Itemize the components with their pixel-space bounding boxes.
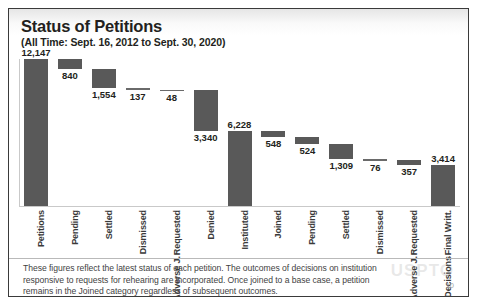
category-label-11: RequestedAdverse J. bbox=[397, 208, 421, 256]
category-label-line: Petitions bbox=[36, 210, 46, 247]
bar-settled-2[interactable] bbox=[92, 69, 116, 88]
category-label-4: RequestedAdverse J. bbox=[160, 208, 184, 256]
bar-value-label: 3,414 bbox=[417, 153, 469, 164]
title-block: Status of Petitions (All Time: Sept. 16,… bbox=[21, 18, 451, 48]
bar-joined-7[interactable] bbox=[261, 131, 285, 138]
bar-column: 3,414 bbox=[431, 59, 455, 206]
bar-settled-9[interactable] bbox=[329, 144, 353, 160]
category-label-line: Denied bbox=[206, 210, 216, 239]
category-label-9: Settled bbox=[329, 208, 353, 256]
category-label-line: Pending bbox=[307, 210, 317, 245]
category-label-1: Pending bbox=[58, 208, 82, 256]
category-label-line: Adverse J. bbox=[409, 256, 419, 297]
category-label-0: Petitions bbox=[24, 208, 48, 256]
bar-dismissed-3[interactable] bbox=[126, 88, 150, 90]
category-label-2: Settled bbox=[92, 208, 116, 256]
bar-value-label: 12,147 bbox=[10, 47, 62, 58]
category-label-line: Decisions bbox=[443, 256, 453, 297]
category-label-line: Instituted bbox=[240, 210, 250, 250]
bar-column: 6,228 bbox=[228, 59, 252, 206]
bar-value-label: 3,340 bbox=[180, 132, 232, 143]
bar-requested-adverse-j-4[interactable] bbox=[160, 90, 184, 92]
page-title: Status of Petitions bbox=[21, 18, 451, 35]
bar-column: 357 bbox=[397, 59, 421, 206]
category-label-8: Pending bbox=[295, 208, 319, 256]
category-label-line: Pending bbox=[70, 210, 80, 245]
category-axis-labels: PetitionsPendingSettledDismissedRequeste… bbox=[19, 208, 460, 256]
category-label-line: Settled bbox=[104, 210, 114, 239]
bar-column: 137 bbox=[126, 59, 150, 206]
category-label-line: Dismissed bbox=[375, 210, 385, 254]
bar-value-label: 524 bbox=[281, 145, 333, 156]
category-label-line: Settled bbox=[341, 210, 351, 239]
bar-pending-1[interactable] bbox=[58, 59, 82, 69]
bar-column: 1,309 bbox=[329, 59, 353, 206]
category-label-3: Dismissed bbox=[126, 208, 150, 256]
axis-baseline bbox=[19, 206, 460, 207]
bar-dismissed-10[interactable] bbox=[363, 159, 387, 161]
bar-final-writt-decisions-12[interactable] bbox=[431, 165, 455, 206]
category-label-12: Final Writt.Decisions bbox=[431, 208, 455, 256]
bar-value-label: 6,228 bbox=[214, 119, 266, 130]
category-label-7: Joined bbox=[261, 208, 285, 256]
slide-frame: Status of Petitions (All Time: Sept. 16,… bbox=[8, 8, 469, 297]
bar-column: 524 bbox=[295, 59, 319, 206]
bar-value-label: 48 bbox=[146, 92, 198, 103]
bar-column: 548 bbox=[261, 59, 285, 206]
category-label-5: Denied bbox=[194, 208, 218, 256]
bar-column: 840 bbox=[58, 59, 82, 206]
category-label-line: Requested bbox=[409, 210, 419, 255]
bar-column: 1,554 bbox=[92, 59, 116, 206]
category-label-line: Dismissed bbox=[138, 210, 148, 254]
bar-pending-8[interactable] bbox=[295, 137, 319, 143]
waterfall-chart-plot: 12,1478401,554137483,3406,2285485241,309… bbox=[19, 59, 460, 206]
category-label-line: Final Writt. bbox=[443, 210, 453, 255]
category-label-line: Requested bbox=[172, 210, 182, 255]
bar-column: 76 bbox=[363, 59, 387, 206]
category-label-10: Dismissed bbox=[363, 208, 387, 256]
footnote-text: These figures reflect the latest status … bbox=[23, 263, 383, 297]
page-number: 10 bbox=[446, 281, 454, 290]
bar-column: 3,340 bbox=[194, 59, 218, 206]
category-label-line: Joined bbox=[273, 210, 283, 238]
bar-value-label: 357 bbox=[383, 166, 435, 177]
footnote-divider bbox=[9, 258, 468, 259]
category-label-6: Instituted bbox=[228, 208, 252, 256]
bar-value-label: 840 bbox=[44, 70, 96, 81]
page-subtitle: (All Time: Sept. 16, 2012 to Sept. 30, 2… bbox=[21, 36, 451, 48]
